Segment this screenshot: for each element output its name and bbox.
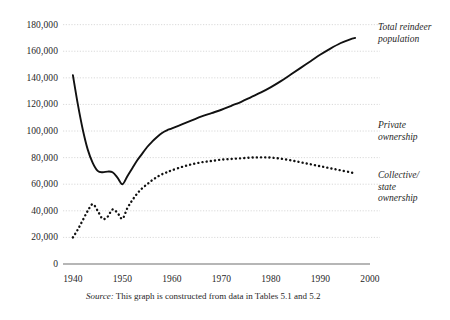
- x-axis-tick-label: 1960: [162, 274, 181, 284]
- series-label-private-line-2: ownership: [378, 132, 418, 144]
- x-axis-tick-label: 1970: [212, 274, 231, 284]
- chart-figure: 020,00040,00060,00080,000100,000120,0001…: [0, 0, 450, 320]
- series-label-collective-line-2: state: [378, 182, 419, 194]
- series-label-private-line-1: Private: [378, 120, 418, 132]
- series-label-total-line-1: Total reindeer: [378, 22, 431, 34]
- x-axis-tick-label: 1990: [311, 274, 330, 284]
- x-axis-tick-label: 1980: [261, 274, 280, 284]
- x-axis-tick-label: 1950: [113, 274, 132, 284]
- x-axis-tick-label: 2000: [360, 274, 379, 284]
- source-note: Source: This graph is constructed from d…: [86, 291, 320, 301]
- chart-plot-area: [0, 0, 450, 320]
- series-label-collective-line-1: Collective/: [378, 170, 419, 182]
- series-label-private-ownership: Private ownership: [378, 120, 418, 143]
- gridlines: [63, 25, 380, 238]
- source-prefix: Source:: [86, 291, 114, 301]
- series-line-collective-state-ownership: [73, 157, 355, 237]
- series-line-total-reindeer-population: [73, 38, 355, 184]
- series-label-total-line-2: population: [378, 34, 431, 46]
- series-label-total-reindeer-population: Total reindeer population: [378, 22, 431, 45]
- source-text: This graph is constructed from data in T…: [114, 291, 321, 301]
- series-paths: [73, 38, 355, 237]
- x-axis-tick-label: 1940: [63, 274, 82, 284]
- series-label-collective-line-3: ownership: [378, 193, 419, 205]
- series-label-collective-state-ownership: Collective/ state ownership: [378, 170, 419, 205]
